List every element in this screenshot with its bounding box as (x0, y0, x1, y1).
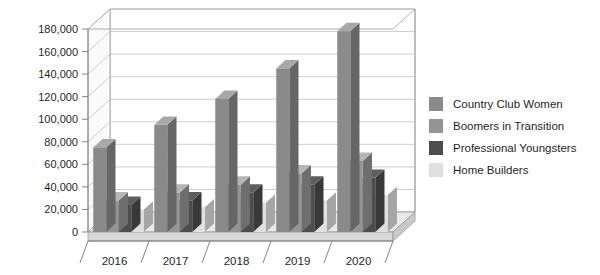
bar-side (167, 116, 176, 232)
bar-side (180, 184, 189, 232)
bar-face (276, 68, 289, 232)
x-tick-label: 2017 (163, 255, 189, 267)
bar-side (228, 91, 237, 232)
x-tick-label: 2016 (102, 255, 128, 267)
x-tick-label: 2019 (285, 255, 311, 267)
bar-face (215, 99, 228, 232)
bar-column (276, 60, 298, 232)
y-tick-label: 80,000 (44, 136, 78, 148)
bar-side (289, 60, 298, 232)
bar-side (253, 184, 262, 232)
y-tick-label: 40,000 (44, 181, 78, 193)
legend-label: Professional Youngsters (453, 142, 577, 154)
bar-side (106, 139, 115, 232)
y-tick-label: 160,000 (38, 46, 78, 58)
bar-side (363, 153, 372, 232)
bar-side (350, 23, 359, 232)
bar-column (154, 116, 176, 232)
bar-face (93, 147, 106, 232)
legend-swatch (429, 97, 443, 111)
bar-side (241, 176, 250, 232)
bar-column (337, 23, 359, 232)
x-tick-label: 2020 (346, 255, 372, 267)
y-tick-label: 180,000 (38, 23, 78, 35)
legend-label: Country Club Women (453, 98, 563, 110)
bar-chart-3d: 020,00040,00060,00080,000100,000120,0001… (0, 0, 600, 275)
x-tick-label: 2018 (224, 255, 250, 267)
legend-label: Home Builders (453, 164, 529, 176)
bar-side (302, 165, 311, 232)
bar-column (215, 91, 237, 232)
chart-container: 020,00040,00060,00080,000100,000120,0001… (0, 0, 600, 275)
bar-face (154, 125, 167, 232)
y-tick-label: 20,000 (44, 203, 78, 215)
legend-swatch (429, 163, 443, 177)
bar-column (93, 139, 115, 232)
bar-side (314, 176, 323, 232)
y-tick-label: 100,000 (38, 113, 78, 125)
y-tick-label: 0 (72, 226, 78, 238)
legend-swatch (429, 119, 443, 133)
y-tick-label: 120,000 (38, 91, 78, 103)
floor-front (88, 232, 393, 241)
legend-label: Boomers in Transition (453, 120, 564, 132)
y-tick-label: 140,000 (38, 68, 78, 80)
legend-swatch (429, 141, 443, 155)
bar-side (375, 169, 384, 232)
y-tick-label: 60,000 (44, 158, 78, 170)
bar-face (337, 31, 350, 232)
